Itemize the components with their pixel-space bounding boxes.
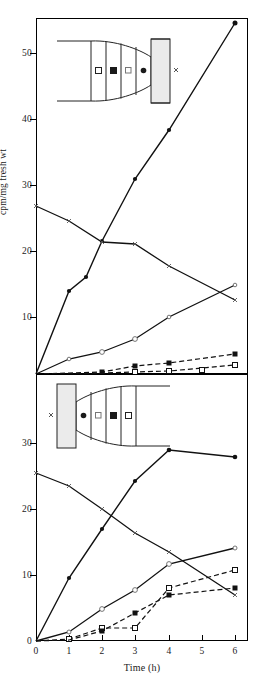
top-panel: 50 40 30 20 10 [0,0,261,380]
top-chart-svg [0,0,261,380]
bottom-chart-svg [0,374,261,684]
bottom-series-filled-square-markers [100,586,238,634]
top-series-cross-line [36,206,235,300]
figure-root: cpm/mg fresh wt 50 40 30 20 10 [0,0,261,684]
bottom-panel: 30 20 10 0 0 1 2 3 4 5 6 [0,374,261,684]
bottom-series-filled-circle-markers [67,448,237,580]
top-series-filled-circle-line [36,23,235,374]
x-axis-label: Time (h) [36,662,248,673]
top-series-open-circle-markers [67,283,237,361]
